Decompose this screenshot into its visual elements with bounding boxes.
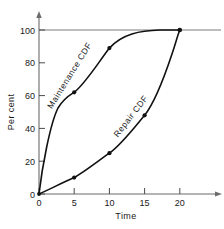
- x-tick-label-20: 20: [175, 198, 185, 208]
- x-tick-label-10: 10: [104, 198, 114, 208]
- y-tick-label-20: 20: [25, 157, 35, 167]
- chart-figure: 100 80 60 40 20 0 Per cent 0 5 10 15 20 …: [0, 0, 224, 229]
- data-point-repair-15: [143, 113, 147, 117]
- data-point-maintenance-20: [178, 28, 183, 33]
- series-curve-repair-cdf: [39, 30, 180, 194]
- x-axis-title: Time: [115, 211, 136, 221]
- y-tick-label-80: 80: [25, 58, 35, 68]
- series-label-maintenance-cdf: Maintenance CDF: [45, 41, 94, 111]
- data-point-maintenance-0: [37, 192, 41, 196]
- x-tick-label-0: 0: [36, 198, 41, 208]
- x-tick-label-15: 15: [140, 198, 150, 208]
- data-point-maintenance-10: [107, 46, 111, 50]
- chart-plot-area: 100 80 60 40 20 0 Per cent 0 5 10 15 20 …: [0, 0, 224, 229]
- y-tick-label-100: 100: [20, 26, 35, 36]
- data-point-repair-5: [72, 176, 76, 180]
- x-tick-label-5: 5: [72, 198, 77, 208]
- y-axis-title: Per cent: [6, 94, 16, 131]
- series-curve-maintenance-cdf: [39, 30, 180, 194]
- x-axis-arrow-icon: [215, 192, 222, 197]
- y-tick-label-40: 40: [25, 124, 35, 134]
- y-tick-label-0: 0: [30, 190, 35, 200]
- data-point-maintenance-5: [72, 90, 76, 94]
- y-tick-label-60: 60: [25, 91, 35, 101]
- y-axis-arrow-icon: [36, 11, 41, 18]
- data-point-repair-10: [107, 151, 111, 155]
